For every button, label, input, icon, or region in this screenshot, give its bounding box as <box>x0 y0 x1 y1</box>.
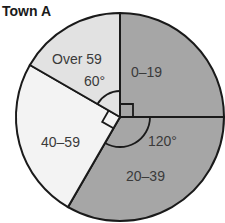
label-0-19: 0–19 <box>131 64 162 80</box>
label-over-59: Over 59 <box>52 51 102 67</box>
angle-label-60: 60° <box>84 73 105 89</box>
angle-label-120: 120° <box>148 133 177 149</box>
label-40-59: 40–59 <box>41 134 80 150</box>
label-20-39: 20–39 <box>126 168 165 184</box>
pie-chart: 0–19 20–39 40–59 Over 59 60° 120° <box>0 0 225 223</box>
